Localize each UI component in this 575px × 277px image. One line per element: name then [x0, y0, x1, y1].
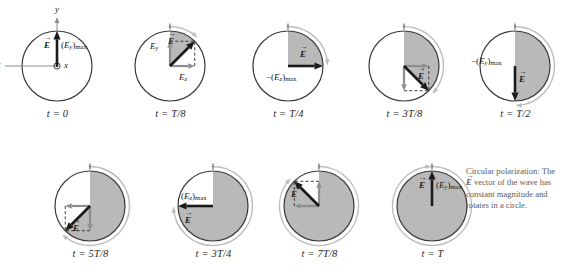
E-vector-label: E	[519, 74, 525, 84]
panel-diagram: E−(Ez)max	[231, 2, 346, 110]
E-vector-label: E	[185, 215, 191, 225]
E-vector-arrow	[53, 31, 60, 66]
E-vector-label: E	[418, 71, 424, 81]
E-vector-label: E	[73, 223, 79, 233]
rotation-arc-arrowhead	[325, 59, 330, 64]
panel-t3T8: Et = 3T/8	[347, 2, 462, 132]
E-magnitude-label: (Ey)max	[436, 180, 462, 190]
panel-diagram: E	[33, 142, 148, 250]
panel-diagram: yzxE(Ey)max	[0, 2, 115, 110]
time-label: t = T	[375, 248, 490, 259]
component-Ez-label: Ez	[179, 72, 187, 82]
E-vector-label: E	[291, 189, 297, 199]
panel-t3T4: E(Ez)maxt = 3T/4	[156, 142, 271, 272]
panel-diagram: E	[347, 2, 462, 110]
caption-line-2: E vector of the wave has	[466, 177, 574, 188]
E-magnitude-label: −(Ey)max	[471, 56, 502, 66]
time-label: t = 7T/8	[262, 248, 377, 259]
panel-diagram: E−(Ey)max	[458, 2, 573, 110]
figure-caption: Circular polarization: TheE vector of th…	[466, 166, 574, 212]
E-vector-label: E	[168, 36, 174, 46]
E-vector-label: E	[300, 49, 306, 59]
panel-t7T8: Et = 7T/8	[262, 142, 377, 272]
panel-diagram: E	[262, 142, 377, 250]
rotation-arc-arrowhead	[171, 207, 176, 212]
time-label: t = T/8	[113, 108, 228, 119]
time-label: t = 0	[0, 108, 115, 119]
panel-tT2: E−(Ey)maxt = T/2	[458, 2, 573, 132]
panel-t0: yzxE(Ey)maxt = 0	[0, 2, 115, 132]
caption-line-4: rotates in a circle.	[466, 200, 574, 211]
circular-polarization-figure: yzxE(Ey)maxt = 0EEyEzt = T/8E−(Ez)maxt =…	[0, 0, 575, 277]
caption-line-2-text: vector of the wave has	[472, 177, 551, 187]
time-label: t = T/4	[231, 108, 346, 119]
panel-diagram: E(Ez)max	[156, 142, 271, 250]
E-vector-label: E	[44, 40, 50, 50]
caption-line-1: Circular polarization: The	[466, 166, 574, 177]
time-label: t = 5T/8	[33, 248, 148, 259]
axis-label-y: y	[55, 4, 59, 14]
rotation-arc-arrowhead	[516, 103, 521, 108]
component-Ey-label: Ey	[150, 41, 158, 51]
time-label: t = 3T/4	[156, 248, 271, 259]
time-label: t = 3T/8	[347, 108, 462, 119]
panel-tT4: E−(Ez)maxt = T/4	[231, 2, 346, 132]
panel-tT8: EEyEzt = T/8	[113, 2, 228, 132]
E-magnitude-label: (Ey)max	[61, 40, 87, 50]
E-magnitude-label: (Ez)max	[181, 191, 206, 201]
panel-t5T8: Et = 5T/8	[33, 142, 148, 272]
caption-line-3: constant magnitude and	[466, 189, 574, 200]
panel-diagram: EEyEz	[113, 2, 228, 110]
rotation-arc-arrowhead	[425, 164, 430, 169]
time-label: t = T/2	[458, 108, 573, 119]
axis-label-z: z	[0, 59, 1, 69]
E-vector-label: E	[419, 180, 425, 190]
E-magnitude-label: −(Ez)max	[266, 72, 297, 82]
axis-label-x: x	[64, 60, 68, 70]
caption-E-vector-symbol: E	[466, 177, 472, 187]
